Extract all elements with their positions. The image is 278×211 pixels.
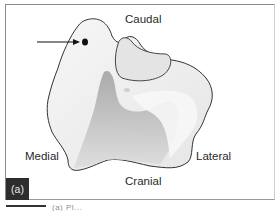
panel-label: (a) [6, 178, 29, 200]
label-cranial: Cranial [125, 175, 161, 187]
caption-rule [6, 205, 46, 207]
label-caudal: Caudal [125, 13, 161, 25]
caudal-facet [115, 38, 170, 81]
dot-marker [82, 38, 88, 45]
foramen [124, 88, 130, 92]
label-medial: Medial [25, 150, 59, 162]
figure-caption: (a) Pl... [52, 203, 82, 211]
label-lateral: Lateral [196, 150, 231, 162]
